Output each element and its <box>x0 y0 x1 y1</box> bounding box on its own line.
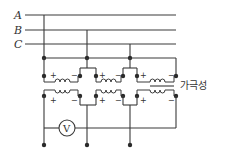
polarity-diagram: A B C <box>0 0 227 163</box>
plus-sign: + <box>50 96 57 105</box>
line-label-b: B <box>13 24 22 37</box>
plus-sign: + <box>99 71 106 80</box>
minus-sign: − <box>115 96 122 105</box>
plus-sign: + <box>50 71 57 80</box>
taps <box>42 15 176 76</box>
line-label-a: A <box>13 9 22 22</box>
primary-windings: + − + − + − <box>42 71 178 82</box>
voltmeter: V <box>59 120 75 136</box>
plus-sign: + <box>140 96 147 105</box>
secondary-windings: + − + − + − <box>42 90 178 105</box>
minus-sign: − <box>71 96 78 105</box>
phase-lines: A B C <box>13 9 176 51</box>
core-indicator: 가극성 <box>150 80 207 91</box>
plus-sign: + <box>99 96 106 105</box>
minus-sign: − <box>168 96 175 105</box>
voltmeter-label: V <box>62 123 71 134</box>
minus-sign: − <box>168 71 175 80</box>
polarity-label: 가극성 <box>180 80 207 91</box>
line-label-c: C <box>14 38 23 51</box>
minus-sign: − <box>115 71 122 80</box>
plus-sign: + <box>140 71 147 80</box>
minus-sign: − <box>71 71 78 80</box>
